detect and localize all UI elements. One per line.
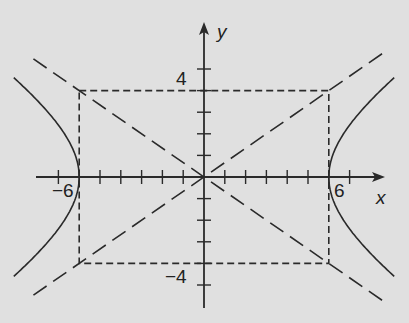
hyperbola-diagram: yx4−4−66	[0, 0, 409, 323]
y-axis-label: y	[215, 21, 228, 42]
asymptote-line-2	[33, 59, 383, 302]
tick-label-y-4: 4	[176, 68, 187, 89]
plot-area: yx4−4−66	[14, 21, 394, 308]
asymptote-line-1	[33, 52, 383, 295]
tick-label-x-neg-6: −6	[52, 180, 74, 201]
tick-label-x-6: 6	[334, 180, 345, 201]
tick-label-y-neg-4: −4	[165, 266, 187, 287]
x-axis-label: x	[375, 187, 387, 208]
